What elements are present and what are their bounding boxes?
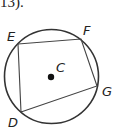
circle-diagram: C E F G D	[0, 0, 120, 128]
vertex-label-g: G	[102, 84, 112, 99]
vertex-label-f: F	[83, 23, 91, 38]
vertex-label-d: D	[8, 115, 18, 128]
center-point	[48, 74, 54, 80]
vertex-label-e: E	[7, 29, 16, 44]
geometry-figure: 13). C E F G D	[0, 0, 120, 128]
inscribed-quadrilateral	[18, 39, 97, 112]
problem-number: 13).	[0, 0, 24, 10]
center-label: C	[56, 60, 66, 75]
